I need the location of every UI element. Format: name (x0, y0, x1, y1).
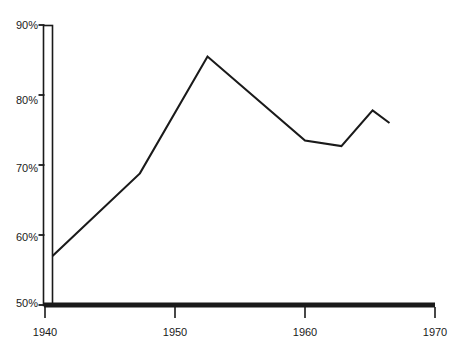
y-tick-label-80: 80% (4, 94, 38, 106)
x-tick-label-1960: 1960 (293, 326, 317, 338)
x-tick-label-1950: 1950 (163, 326, 187, 338)
x-axis-ticks (45, 307, 435, 318)
line-chart: 90% 80% 70% 60% 50% 1940 1950 1960 1970 (0, 0, 454, 351)
y-tick-label-60: 60% (4, 231, 38, 243)
chart-plot-area (0, 0, 454, 351)
y-tick-label-50: 50% (4, 297, 38, 309)
data-series-line (53, 57, 390, 257)
y-axis-bar (44, 26, 53, 306)
x-tick-label-1970: 1970 (423, 326, 447, 338)
y-tick-label-90: 90% (4, 19, 38, 31)
y-tick-label-70: 70% (4, 162, 38, 174)
x-tick-label-1940: 1940 (33, 326, 57, 338)
